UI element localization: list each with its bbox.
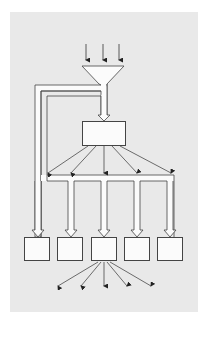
fault-model-f2 xyxy=(57,237,83,261)
diagram-lines xyxy=(0,0,206,348)
fault-model-f5 xyxy=(157,237,183,261)
main-prediction-box xyxy=(82,121,126,146)
fault-model-f4 xyxy=(124,237,150,261)
fault-model-f3 xyxy=(91,237,117,261)
fault-model-f1 xyxy=(24,237,50,261)
